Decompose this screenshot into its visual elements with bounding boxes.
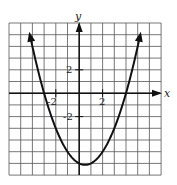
tick-label-x-pos2: 2	[99, 96, 105, 107]
curve-arrow-right-icon	[135, 32, 143, 43]
tick-label-x-neg2: -2	[47, 96, 57, 107]
parabola-graph: y x -2 2 2 -2	[0, 0, 177, 185]
tick-label-y-pos2: 2	[66, 64, 72, 75]
tick-label-y-neg2: -2	[63, 111, 73, 122]
curve-arrow-left-icon	[27, 32, 35, 43]
x-axis-label: x	[164, 87, 171, 100]
y-axis-arrow-icon	[76, 22, 83, 32]
y-axis-label: y	[74, 10, 82, 23]
x-axis-arrow-icon	[152, 90, 162, 97]
